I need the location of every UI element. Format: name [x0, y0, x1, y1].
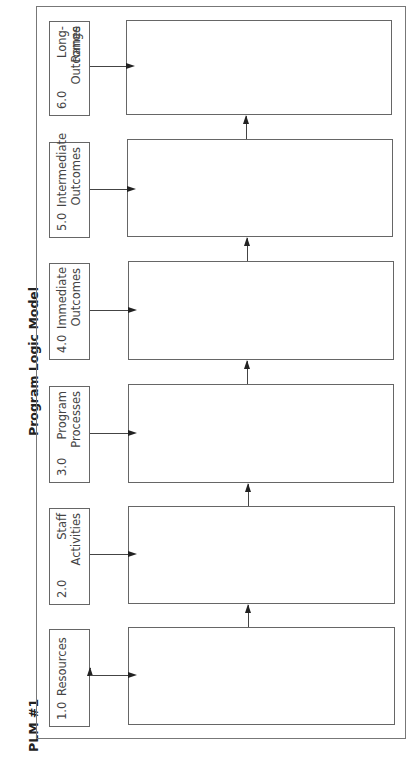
label-to-box-arrow-4 [90, 310, 128, 311]
stage-name-line2: Activities [69, 513, 83, 574]
stage-name: Intermediate [55, 147, 69, 207]
flow-arrow-2-to-3 [248, 484, 249, 506]
stage-number: 3.0 [55, 458, 69, 476]
label-to-box-arrow-5 [90, 189, 127, 190]
label-to-box-arrow-2 [90, 554, 128, 555]
stage-number: 4.0 [55, 335, 69, 353]
stage-name: Resources [55, 634, 69, 696]
stage-box-3[interactable] [128, 384, 394, 483]
flow-arrow-1-to-2 [248, 605, 249, 627]
flow-arrow-3-to-4 [247, 361, 248, 384]
stage-box-2[interactable] [128, 506, 395, 604]
arrow-spacer [90, 668, 91, 669]
label-to-box-arrow-1 [90, 675, 128, 676]
stage-box-1[interactable] [128, 627, 395, 725]
stage-name-line2: Outcomes [69, 268, 83, 329]
label-to-box-arrow-6 [90, 66, 126, 67]
stage-label-4: 4.0 Immediate Outcomes [49, 263, 90, 360]
label-to-box-arrow-3 [90, 433, 128, 434]
stage-number: 6.0 [55, 91, 69, 109]
stage-label-1: 1.0 Resources [49, 629, 90, 727]
stage-box-4[interactable] [128, 261, 394, 360]
stage-label-6: 6.0 Long-Range Outcomes [49, 21, 90, 116]
stage-number: 2.0 [55, 580, 69, 598]
stage-name: Program [55, 391, 69, 452]
flow-arrow-4-to-5 [247, 238, 248, 261]
flow-arrow-5-to-6 [246, 116, 247, 139]
stage-box-6[interactable] [126, 20, 392, 115]
stage-number: 5.0 [55, 213, 69, 231]
stage-label-5: 5.0 Intermediate Outcomes [49, 142, 90, 238]
stage-name-line2: Processes [69, 391, 83, 452]
stage-label-3: 3.0 Program Processes [49, 386, 90, 483]
stage-name-line2: Outcomes [69, 147, 83, 207]
stage-box-5[interactable] [127, 139, 393, 237]
stage-name: Staff [55, 513, 69, 574]
stage-label-2: 2.0 Staff Activities [49, 508, 90, 605]
stage-name: Immediate [55, 268, 69, 329]
stage-number: 1.0 [55, 702, 69, 720]
stage-name-line2: Outcomes [69, 26, 83, 85]
rotated-page: PLM #1 Program Logic Model 1.0 Resources… [0, 0, 415, 760]
